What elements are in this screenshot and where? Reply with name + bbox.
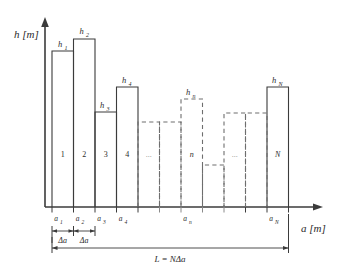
tick-label-a4-sub: 4 — [125, 219, 128, 225]
height-label-h1-base: h — [58, 39, 62, 49]
canvas-background — [0, 0, 352, 276]
total-length-label: L = NΔa — [153, 254, 186, 264]
x-axis-title: a [m] — [301, 222, 326, 234]
tick-label-a2-sub: 2 — [82, 219, 85, 225]
height-label-hn-sub: n — [193, 93, 196, 99]
bar-number-n: n — [190, 150, 194, 159]
tick-label-a1-base: a — [54, 214, 58, 223]
height-label-h4-base: h — [122, 75, 126, 85]
bar-number-2: 2 — [82, 150, 86, 159]
bar-number-ellipsis-right: ... — [232, 150, 238, 159]
tick-label-aN-base: a — [269, 214, 273, 223]
tick-label-a2-base: a — [76, 214, 80, 223]
delta-a-label-1: Δa — [57, 236, 67, 245]
height-label-h2-base: h — [80, 26, 84, 36]
tick-label-a3-sub: 3 — [102, 219, 106, 225]
bar-number-N: N — [274, 150, 281, 159]
height-label-hn-base: h — [186, 87, 190, 97]
bar-number-ellipsis-left: ... — [146, 150, 152, 159]
bar-number-4: 4 — [125, 150, 129, 159]
height-label-h1-sub: 1 — [65, 45, 68, 51]
histogram-diagram: h [m] a [m] — [0, 0, 352, 276]
bar-number-1: 1 — [61, 150, 65, 159]
height-label-h2-sub: 2 — [86, 32, 89, 38]
height-label-hN-base: h — [272, 75, 276, 85]
tick-label-a3-base: a — [97, 214, 101, 223]
figure-container: h [m] a [m] — [0, 0, 352, 276]
tick-label-an-sub: n — [189, 219, 192, 225]
height-label-h4-sub: 4 — [129, 81, 132, 87]
tick-label-a4-base: a — [119, 214, 123, 223]
delta-a-label-2: Δa — [79, 236, 89, 245]
tick-label-aN-sub: N — [274, 219, 279, 225]
bar-number-3: 3 — [104, 150, 108, 159]
height-label-h3-base: h — [100, 100, 104, 110]
tick-label-an-base: a — [183, 214, 187, 223]
y-axis-title: h [m] — [14, 28, 39, 40]
height-label-h3-sub: 3 — [106, 106, 110, 112]
tick-label-a1-sub: 1 — [60, 219, 63, 225]
